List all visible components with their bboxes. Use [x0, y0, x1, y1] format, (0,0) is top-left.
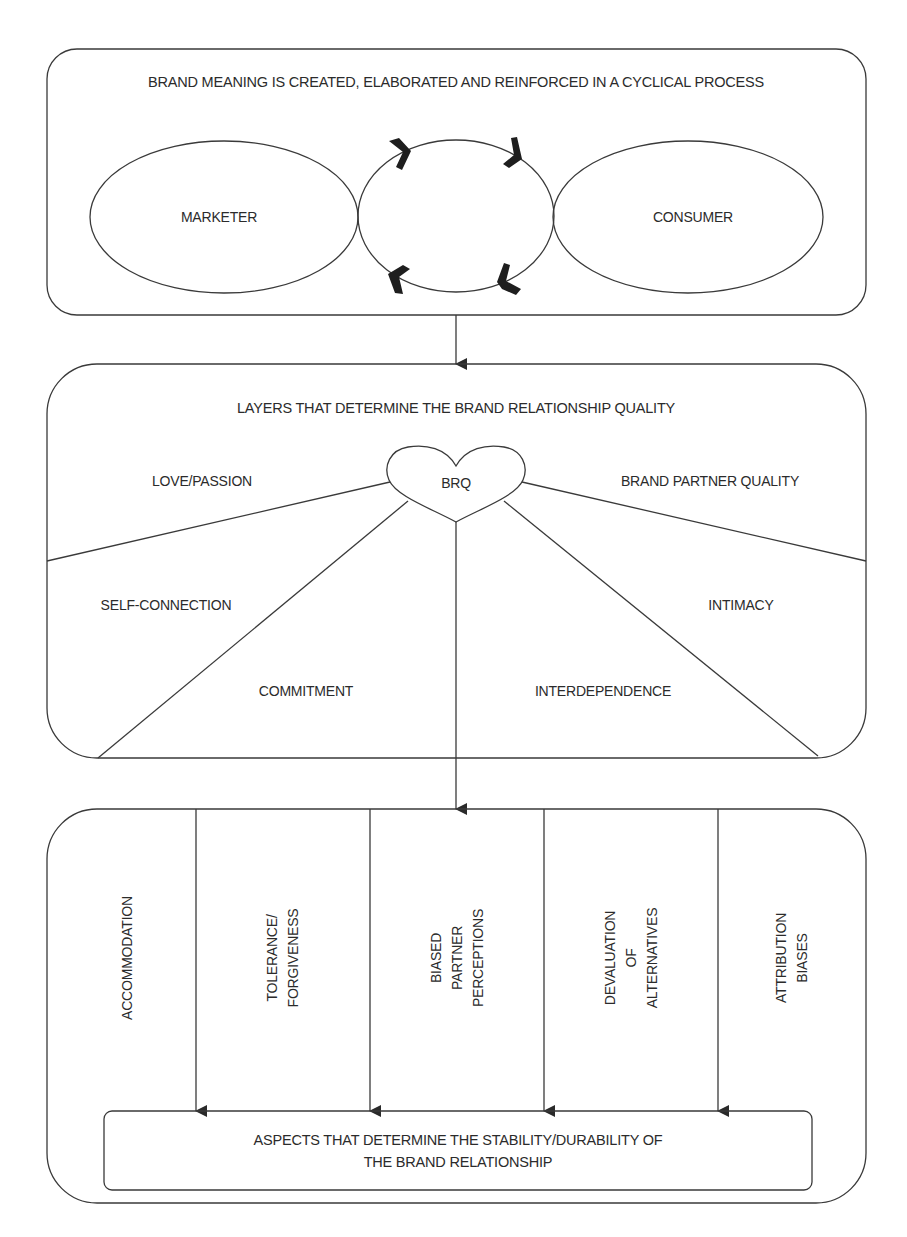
line-brand-partner — [522, 482, 866, 561]
cycle-chevron-bottom-left — [388, 265, 410, 294]
outcome-line-2: THE BRAND RELATIONSHIP — [364, 1151, 553, 1173]
outcome-line-1: ASPECTS THAT DETERMINE THE STABILITY/DUR… — [254, 1129, 663, 1151]
brq-label: BRQ — [441, 475, 471, 491]
intimacy-label: INTIMACY — [708, 597, 773, 613]
marketer-label: MARKETER — [181, 209, 257, 225]
outcome-text: ASPECTS THAT DETERMINE THE STABILITY/DUR… — [104, 1111, 812, 1190]
cycle-chevron-top-right — [503, 137, 522, 168]
column-devaluation-of-alternatives: DEVALUATION OF ALTERNATIVES — [600, 908, 663, 1009]
brand-partner-quality-label: BRAND PARTNER QUALITY — [621, 473, 799, 489]
column-biased-partner-perceptions: BIASED PARTNER PERCEPTIONS — [426, 909, 489, 1007]
consumer-label: CONSUMER — [653, 209, 733, 225]
diagram-canvas: BRAND MEANING IS CREATED, ELABORATED AND… — [0, 0, 907, 1237]
interdependence-label: INTERDEPENDENCE — [535, 683, 671, 699]
cycle-chevron-bottom-right — [497, 263, 521, 295]
column-accommodation: ACCOMMODATION — [117, 896, 138, 1020]
column-attribution-biases: ATTRIBUTION BIASES — [771, 913, 813, 1003]
love-passion-label: LOVE/PASSION — [152, 473, 252, 489]
commitment-label: COMMITMENT — [259, 683, 353, 699]
box1-title: BRAND MEANING IS CREATED, ELABORATED AND… — [148, 74, 764, 90]
column-tolerance-forgiveness: TOLERANCE/ FORGIVENESS — [262, 909, 304, 1008]
line-self-commit — [98, 501, 408, 758]
box2-title: LAYERS THAT DETERMINE THE BRAND RELATION… — [237, 400, 675, 416]
diagram-graphics — [0, 0, 907, 1237]
cycle-ellipse — [358, 140, 554, 292]
self-connection-label: SELF-CONNECTION — [101, 597, 232, 613]
line-love-passion — [47, 482, 390, 561]
